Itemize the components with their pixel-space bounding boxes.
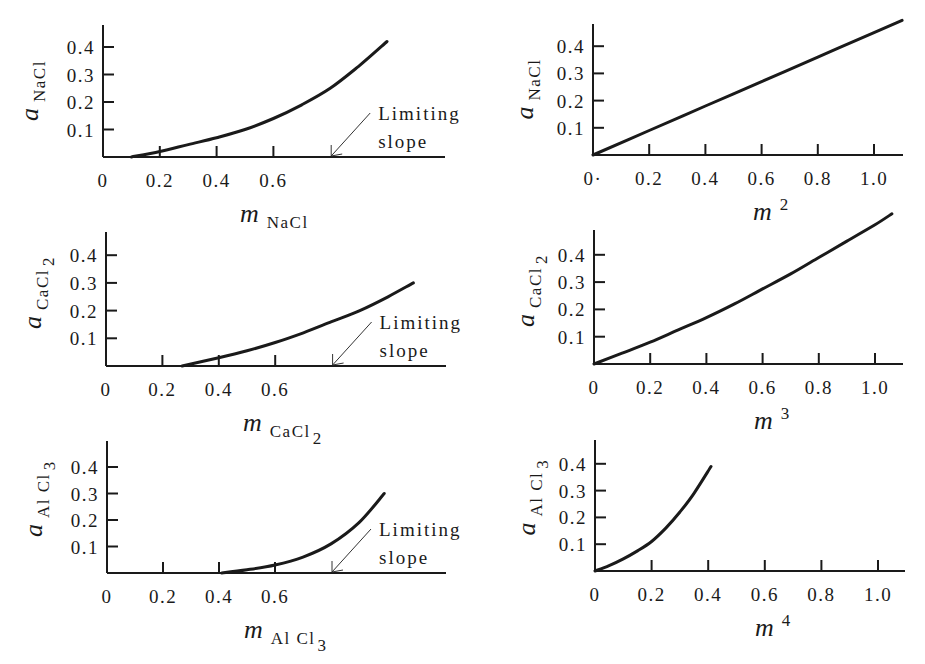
annotation-line2: slope	[380, 340, 430, 361]
y-axis-label: aNaCl	[15, 60, 49, 121]
x-tick-label: 1.0	[861, 377, 889, 398]
annotation-arrow	[333, 322, 372, 365]
panel-nacl_vs_m: 0.10.20.30.400.20.40.6LimitingslopemNaCl…	[15, 25, 461, 232]
x-tick-label: 0	[102, 586, 113, 607]
y-tick-label: 0.1	[557, 118, 585, 139]
x-tick-label: 0.4	[691, 168, 719, 189]
y-tick-label: 0.4	[71, 457, 99, 478]
y-tick-label: 0.2	[71, 510, 99, 531]
x-tick-label: 1.0	[860, 168, 888, 189]
y-axis-label: aAl Cl3	[19, 460, 59, 537]
x-axis-label: mCaCl2	[243, 408, 323, 448]
x-tick-label: 0·	[584, 168, 603, 189]
x-tick-label: 0.4	[692, 377, 720, 398]
x-axis-label: m2	[753, 195, 790, 226]
annotation-line1: Limiting	[379, 519, 462, 540]
annotation-arrow	[331, 113, 370, 156]
annotation-line2: slope	[379, 547, 429, 568]
y-tick-label: 0.3	[559, 481, 587, 502]
y-axis-label: aCaCl2	[511, 254, 551, 327]
panel-cacl2_vs_m: 0.10.20.30.400.20.40.6LimitingslopemCaCl…	[18, 232, 462, 448]
y-tick-label: 0.1	[71, 537, 99, 558]
x-tick-label: 0.6	[261, 586, 289, 607]
y-tick-label: 0.4	[70, 245, 98, 266]
y-tick-label: 0.2	[559, 507, 587, 528]
data-curve	[593, 20, 902, 155]
x-tick-label: 0.6	[259, 170, 287, 191]
x-tick-label: 0.6	[261, 379, 289, 400]
x-tick-label: 0.8	[805, 377, 833, 398]
y-tick-label: 0.2	[558, 299, 586, 320]
y-tick-label: 0.4	[67, 37, 95, 58]
x-axis-label: mAl Cl3	[244, 615, 328, 655]
x-tick-label: 0.2	[635, 168, 663, 189]
x-tick-label: 0	[98, 170, 109, 191]
y-tick-label: 0.3	[557, 63, 585, 84]
x-tick-label: 0.6	[747, 168, 775, 189]
x-tick-label: 0.2	[146, 170, 174, 191]
activity-molality-figure: 0.10.20.30.400.20.40.6LimitingslopemNaCl…	[0, 0, 925, 664]
y-tick-label: 0.4	[558, 245, 586, 266]
x-tick-label: 0.2	[149, 586, 177, 607]
figure-canvas: 0.10.20.30.400.20.40.6LimitingslopemNaCl…	[0, 0, 925, 664]
y-axis-label: aCaCl2	[18, 256, 58, 329]
y-tick-label: 0.2	[67, 92, 95, 113]
y-axis-label: aAl Cl3	[512, 459, 552, 536]
y-tick-label: 0.1	[559, 534, 587, 555]
x-axis-label: m4	[755, 611, 792, 642]
x-tick-label: 0.2	[636, 377, 664, 398]
x-tick-label: 0.2	[148, 379, 176, 400]
x-tick-label: 0.6	[748, 377, 776, 398]
y-tick-label: 0.4	[559, 454, 587, 475]
y-tick-label: 0.1	[558, 327, 586, 348]
data-curve	[594, 214, 892, 364]
y-tick-label: 0.3	[558, 272, 586, 293]
x-tick-label: 0	[589, 377, 600, 398]
panel-alcl3_vs_m4: 0.10.20.30.400.20.40.60.81.0m4aAl Cl3	[512, 440, 905, 642]
y-tick-label: 0.1	[67, 120, 95, 141]
x-tick-label: 0.8	[807, 584, 835, 605]
x-tick-label: 0	[101, 379, 112, 400]
data-curve	[222, 494, 384, 574]
x-tick-label: 0.8	[804, 168, 832, 189]
panel-alcl3_vs_m: 0.10.20.30.400.20.40.6LimitingslopemAl C…	[19, 441, 462, 655]
y-tick-label: 0.4	[557, 36, 585, 57]
x-axis-label: mNaCl	[240, 199, 309, 232]
data-curve	[131, 42, 387, 158]
y-tick-label: 0.2	[557, 91, 585, 112]
data-curve	[595, 467, 711, 572]
y-tick-label: 0.3	[67, 65, 95, 86]
x-tick-label: 0.2	[637, 584, 665, 605]
y-tick-label: 0.1	[70, 328, 98, 349]
x-tick-label: 0.4	[205, 586, 233, 607]
x-tick-label: 0	[590, 584, 601, 605]
x-tick-label: 0.4	[202, 170, 230, 191]
y-tick-label: 0.2	[70, 301, 98, 322]
annotation-arrow	[332, 529, 371, 572]
annotation-line2: slope	[378, 131, 428, 152]
y-axis-label: aNaCl	[510, 59, 544, 120]
panel-nacl_vs_m2: 0.10.20.30.40·0.20.40.60.81.0m2aNaCl	[510, 20, 903, 226]
x-tick-label: 1.0	[864, 584, 892, 605]
annotation-line1: Limiting	[378, 103, 461, 124]
y-tick-label: 0.3	[71, 484, 99, 505]
x-tick-label: 0.4	[694, 584, 722, 605]
x-tick-label: 0.4	[205, 379, 233, 400]
y-tick-label: 0.3	[70, 273, 98, 294]
panel-cacl2_vs_m3: 0.10.20.30.400.20.40.60.81.0m3aCaCl2	[511, 214, 903, 435]
annotation-line1: Limiting	[380, 312, 463, 333]
x-tick-label: 0.6	[751, 584, 779, 605]
x-axis-label: m3	[754, 404, 791, 435]
